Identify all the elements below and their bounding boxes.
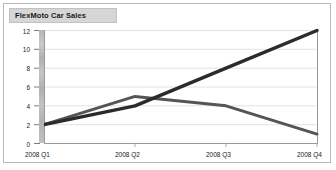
y-tick-label: 0 [14,140,30,147]
chart-canvas [0,0,336,170]
x-tick-marks [135,144,317,148]
x-tick-label: 2008 Q3 [206,151,231,158]
x-tick-label: 2008 Q4 [297,151,322,158]
y-tick-label: 12 [14,27,30,34]
y-tick-label: 8 [14,65,30,72]
y-tick-label: 6 [14,84,30,91]
chart-plot-area: 12 10 8 6 4 2 0 2008 Q1 2008 Q2 2008 Q3 … [0,0,336,170]
y-tick-label: 2 [14,121,30,128]
y-tick-label: 4 [14,102,30,109]
y-axis-shading [39,30,44,143]
x-tick-label: 2008 Q1 [25,151,50,158]
x-tick-label: 2008 Q2 [115,151,140,158]
y-tick-label: 10 [14,46,30,53]
